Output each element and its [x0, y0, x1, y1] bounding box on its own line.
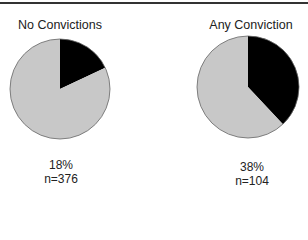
percent-label-any-conviction: 38% — [212, 160, 292, 174]
percent-label-no-convictions: 18% — [21, 158, 101, 172]
n-label-no-convictions: n=376 — [21, 172, 101, 186]
n-label-any-conviction: n=104 — [212, 174, 292, 188]
pie-any-conviction — [197, 36, 299, 138]
pie-no-convictions — [10, 39, 110, 139]
